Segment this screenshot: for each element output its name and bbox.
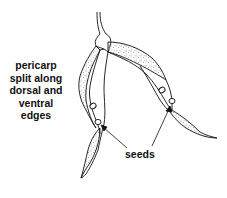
pod-diagram: pericarp split along dorsal and ventral … xyxy=(0,0,227,198)
seeds-label: seeds xyxy=(125,148,155,161)
pericarp-label-line-5: edges xyxy=(6,109,66,122)
pericarp-label-line-1: pericarp xyxy=(6,59,66,72)
seed-leader-lines xyxy=(101,106,172,148)
pericarp-label-line-4: ventral xyxy=(6,97,66,110)
pericarp-label: pericarp split along dorsal and ventral … xyxy=(6,59,66,122)
seed-right-lower xyxy=(169,98,175,103)
seed-left-lower xyxy=(95,119,101,124)
seed-right-upper xyxy=(158,86,166,94)
seed-left-upper xyxy=(89,102,97,110)
pericarp-label-line-2: split along xyxy=(6,72,66,85)
pericarp-label-line-3: dorsal and xyxy=(6,84,66,97)
seeds xyxy=(89,86,175,124)
left-pericarp-valve xyxy=(79,46,100,178)
